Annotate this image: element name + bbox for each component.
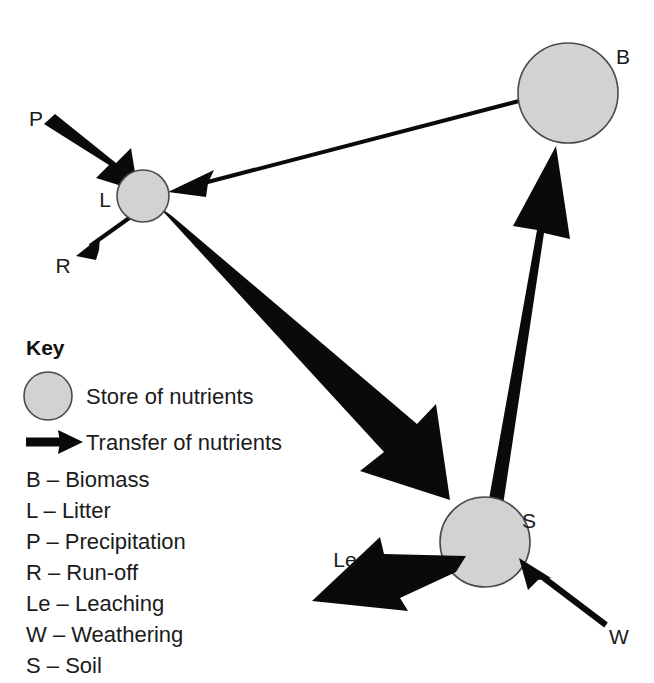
flow-runoff	[76, 216, 132, 260]
key-transfer-arrow-icon	[26, 430, 83, 454]
store-circle-biomass	[518, 43, 618, 143]
flow-biomass-to-litter-line	[200, 100, 523, 184]
flow-soil-to-biomass-shape	[486, 146, 570, 516]
flow-biomass-to-litter	[168, 100, 523, 197]
flow-label-leaching: Le	[333, 548, 356, 571]
key-abbreviation-biomass: B – Biomass	[26, 467, 150, 492]
key-abbreviation-runoff: R – Run-off	[26, 560, 139, 585]
key-abbreviation-weathering: W – Weathering	[26, 622, 183, 647]
key-title: Key	[26, 336, 65, 359]
node-label-biomass: B	[616, 45, 630, 68]
key-transfer-label: Transfer of nutrients	[86, 430, 282, 455]
flow-label-weathering: W	[609, 625, 629, 648]
key-legend: Key Store of nutrients Transfer of nutri…	[24, 336, 282, 678]
key-store-label: Store of nutrients	[86, 384, 254, 409]
key-abbreviation-precipitation: P – Precipitation	[26, 529, 186, 554]
flow-label-runoff: R	[55, 254, 70, 277]
flow-runoff-head	[76, 237, 100, 260]
node-label-soil: S	[522, 509, 536, 532]
store-circle-litter	[117, 170, 169, 222]
key-store-swatch-icon	[24, 372, 72, 420]
flow-litter-to-soil-shape	[158, 206, 450, 500]
key-transfer-arrow-head	[58, 430, 83, 454]
key-abbreviation-soil: S – Soil	[26, 653, 102, 678]
flow-soil-to-biomass	[486, 146, 570, 516]
diagram-canvas: B L S P R Le W Key Store of nutrients Tr…	[0, 0, 654, 683]
node-label-litter: L	[99, 188, 111, 211]
key-abbreviation-litter: L – Litter	[26, 498, 111, 523]
flow-biomass-to-litter-head	[168, 170, 214, 197]
flow-label-precipitation: P	[29, 107, 43, 130]
nutrient-cycle-diagram: B L S P R Le W Key Store of nutrients Tr…	[0, 0, 654, 683]
flow-weathering-line	[540, 575, 606, 625]
flow-litter-to-soil	[158, 206, 450, 500]
flow-weathering	[519, 558, 606, 625]
flow-weathering-head	[519, 558, 551, 590]
key-abbreviation-leaching: Le – Leaching	[26, 591, 164, 616]
store-circle-soil	[440, 497, 530, 587]
